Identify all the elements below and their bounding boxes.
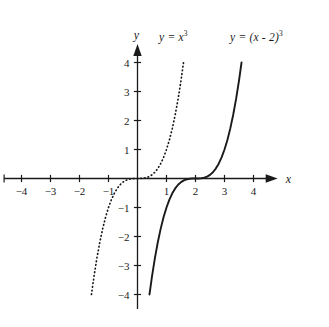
x-tick-label: −1 xyxy=(103,185,115,197)
curve-label-x-minus-2-cubed-text: y = (x - 2) xyxy=(230,31,279,43)
y-axis-arrowhead xyxy=(133,44,141,56)
x-tick-label: −2 xyxy=(74,185,86,197)
axis-names-layer: yx xyxy=(133,28,292,186)
curve-label-x-cubed: y = x3 xyxy=(159,31,188,43)
y-tick-label: 3 xyxy=(124,86,130,98)
y-tick-label: 2 xyxy=(124,115,130,127)
curve-label-x-minus-2-cubed-exponent: 3 xyxy=(279,29,283,38)
curve-label-x-cubed-text: y = x xyxy=(159,31,184,43)
x-tick-label: 2 xyxy=(193,185,199,197)
y-tick-label: −2 xyxy=(118,231,130,243)
cubic-functions-graph: −4−3−2−11234−4−3−2−11234 yx y = x3 y = (… xyxy=(0,0,329,327)
x-tick-label: −3 xyxy=(45,185,57,197)
x-axis-arrowhead xyxy=(266,174,278,182)
x-tick-label: −4 xyxy=(16,185,28,197)
x-tick-label: 1 xyxy=(164,185,170,197)
curve-label-x-cubed-exponent: 3 xyxy=(184,29,188,38)
y-tick-label: −1 xyxy=(118,202,130,214)
plot-canvas: −4−3−2−11234−4−3−2−11234 yx xyxy=(0,0,329,327)
y-tick-label: −4 xyxy=(118,289,130,301)
x-tick-label: 3 xyxy=(222,185,228,197)
x-axis-label: x xyxy=(285,172,292,186)
y-tick-label: −3 xyxy=(118,260,130,272)
y-tick-label: 1 xyxy=(124,144,130,156)
curve-label-x-minus-2-cubed: y = (x - 2)3 xyxy=(230,31,283,43)
axes-layer xyxy=(4,44,278,309)
x-tick-label: 4 xyxy=(251,185,257,197)
y-axis-label: y xyxy=(133,28,140,42)
y-tick-label: 4 xyxy=(124,57,130,69)
